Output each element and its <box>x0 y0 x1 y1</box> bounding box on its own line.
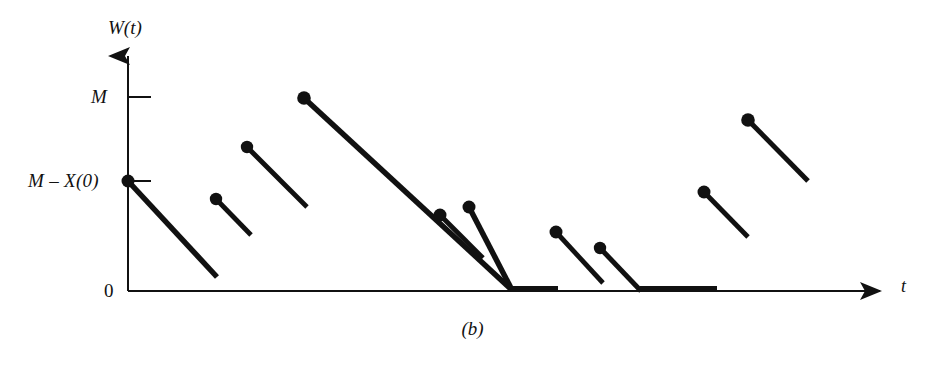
jump-marker-2 <box>210 193 222 205</box>
segment-2 <box>216 199 251 235</box>
jump-marker-1 <box>122 175 135 188</box>
y-tick-label-m-minus-x0: M – X(0) <box>28 171 99 190</box>
waiting-time-plot <box>0 0 945 367</box>
x-axis-label: t <box>901 277 906 295</box>
jump-marker-6 <box>463 201 476 214</box>
segment-4 <box>304 98 512 290</box>
figure-container: W(t) t M M – X(0) 0 (b) <box>0 0 945 367</box>
figure-caption: (b) <box>0 318 945 340</box>
jump-markers <box>122 91 755 254</box>
jump-marker-4 <box>297 91 311 105</box>
y-axis-label: W(t) <box>108 18 142 37</box>
segment-3 <box>247 147 307 207</box>
jump-marker-9 <box>698 186 711 199</box>
y-tick-label-M: M <box>91 87 107 106</box>
jump-marker-8 <box>594 242 606 254</box>
segment-9 <box>704 192 748 237</box>
jump-marker-10 <box>741 113 755 127</box>
jump-marker-3 <box>241 141 253 153</box>
jump-marker-7 <box>550 226 563 239</box>
segment-10 <box>748 120 808 181</box>
segment-1 <box>128 181 217 277</box>
segment-7 <box>556 232 603 283</box>
jump-marker-5 <box>434 209 447 222</box>
segment-8 <box>600 248 641 291</box>
y-tick-label-zero: 0 <box>104 281 114 300</box>
